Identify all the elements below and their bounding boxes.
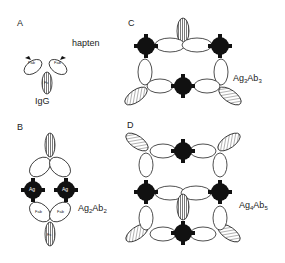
fc-label-b: Fc [47,233,51,237]
immune-complex-diagram [0,0,285,263]
fc-label: Fc [44,81,48,85]
fab-label-b-right: Fab [57,210,64,214]
panel-letter-b: B [17,123,23,132]
complex-label-c: Ag3Ab3 [233,74,262,84]
fab-label-right: Fab [54,61,61,65]
panel-letter-c: C [128,19,135,28]
igg-label: IgG [35,97,50,106]
panel-letter-a: A [17,19,23,28]
complex-label-b: Ag2Ab2 [78,204,107,214]
panel-letter-d: D [127,121,134,130]
panel-c-ag3ab3 [122,18,244,108]
hapten-label: hapten [72,39,100,48]
complex-label-d: Ag4Ab5 [239,201,268,211]
fab-label-b-left: Fab [35,210,42,214]
antigen-label-left: Ag [29,187,35,192]
antigen-label-right: Ag [62,187,68,192]
panel-d-ag4ab5 [123,130,243,246]
fab-label-left: Fab [28,61,35,65]
